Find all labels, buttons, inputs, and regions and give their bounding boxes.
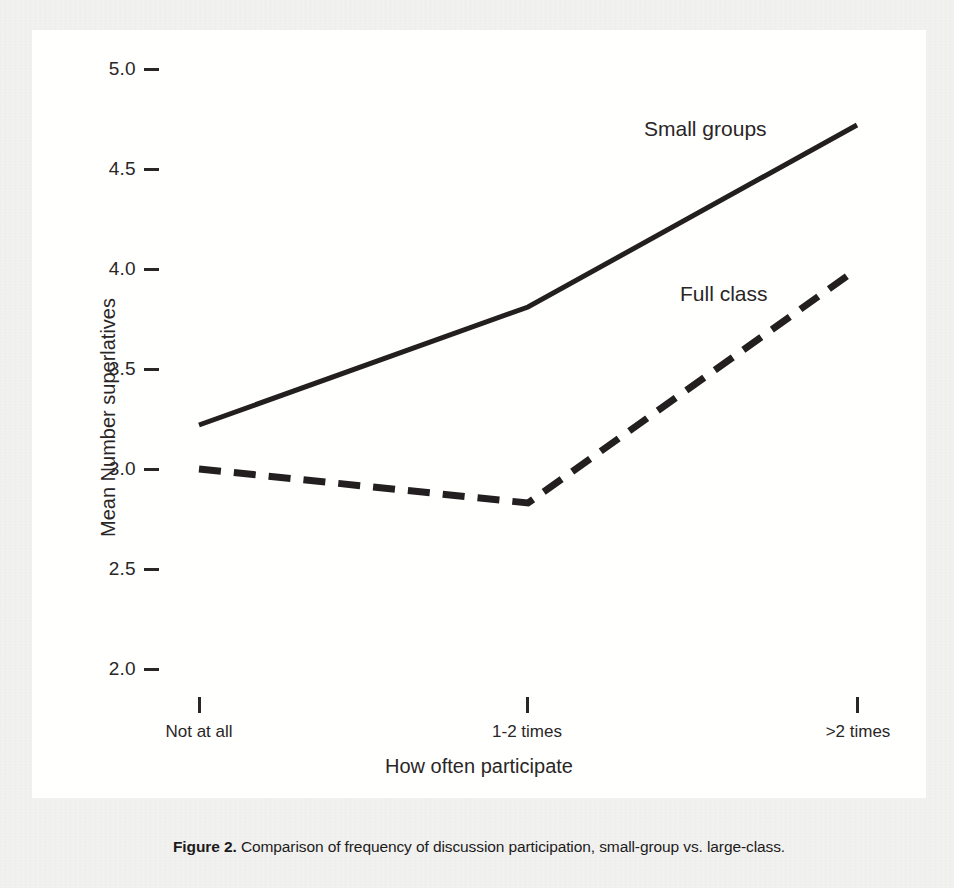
figure-caption-label: Figure 2. <box>173 838 237 855</box>
x-tick-label-0: Not at all <box>165 722 232 742</box>
x-axis-title: How often participate <box>32 755 926 778</box>
figure-caption-text: Comparison of frequency of discussion pa… <box>237 838 785 855</box>
x-tick-label-1: 1-2 times <box>492 722 562 742</box>
chart-plot-area: 5.0 4.5 4.0 3.5 3.0 2.5 2.0 Mean Number … <box>32 30 926 798</box>
x-tick-label-2: >2 times <box>826 722 891 742</box>
series-label-small-groups: Small groups <box>644 117 767 141</box>
x-tick-mark-2 <box>856 697 859 713</box>
chart-series-svg <box>32 30 926 798</box>
series-small-groups-line <box>199 125 857 425</box>
series-label-full-class: Full class <box>680 282 768 306</box>
figure-caption: Figure 2. Comparison of frequency of dis… <box>32 838 926 856</box>
x-tick-mark-1 <box>526 697 529 713</box>
x-tick-mark-0 <box>198 697 201 713</box>
figure-panel: 5.0 4.5 4.0 3.5 3.0 2.5 2.0 Mean Number … <box>32 30 926 798</box>
